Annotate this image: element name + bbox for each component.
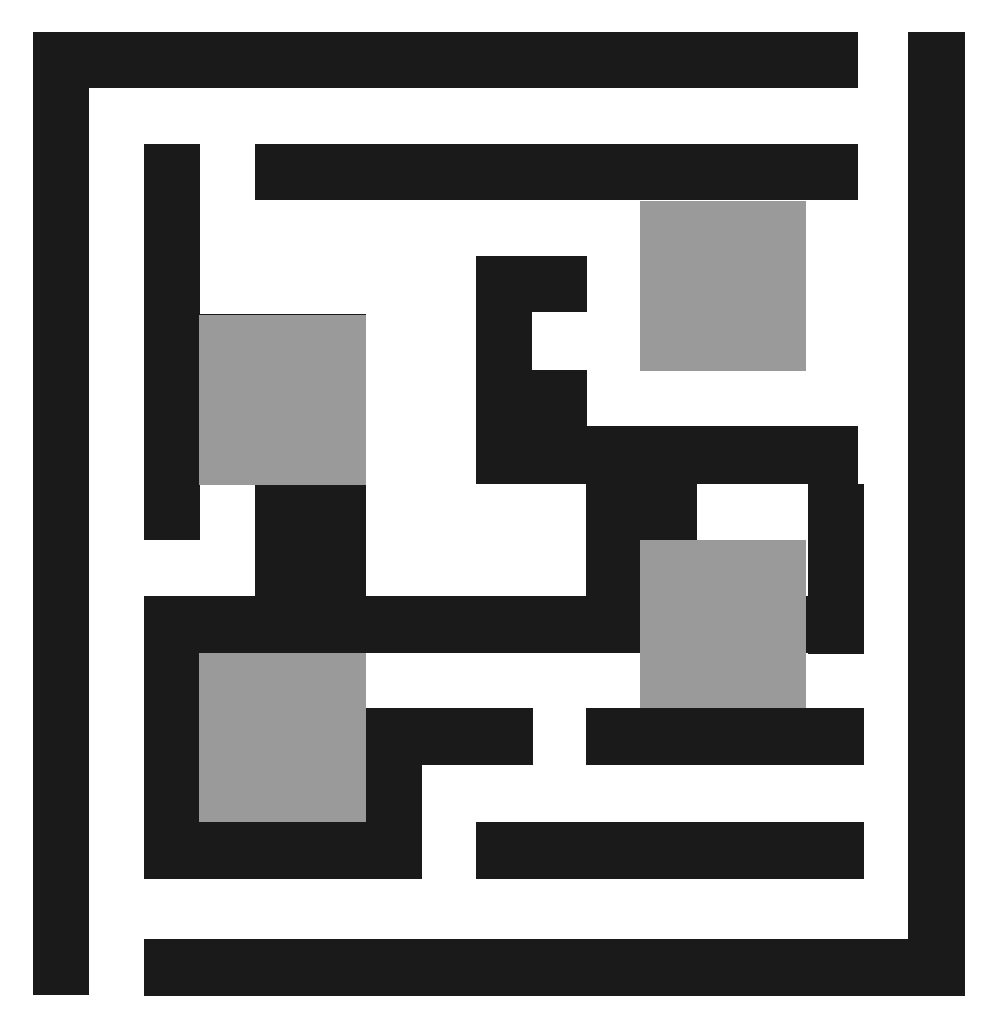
maze-goal-goal-bottom-left: [199, 653, 366, 822]
maze-wall-w-r8-bottom-left: [144, 822, 422, 879]
maze-wall-outer-left: [33, 32, 89, 995]
maze-wall-w-r7-horiz-mid: [366, 708, 533, 765]
maze-wall-w-r8-bottom-mid: [476, 822, 864, 879]
maze-goal-goal-top-right: [640, 201, 806, 371]
maze-wall-outer-bottom: [144, 939, 965, 996]
maze-wall-w-r2-top-long: [255, 144, 858, 200]
maze-wall-w-r4-c1-vert: [144, 370, 200, 540]
maze-wall-outer-right: [908, 32, 965, 995]
maze-wall-w-r5-c7-block: [808, 484, 864, 654]
maze-goal-goal-bottom-right: [640, 540, 806, 708]
maze-wall-w-r4-right-bar: [476, 426, 858, 484]
maze-canvas: [0, 0, 999, 1031]
maze-wall-w-r7-right-horiz: [586, 708, 864, 765]
maze-goal-goal-top-left: [199, 315, 366, 485]
maze-wall-w-r5-c3-block: [255, 484, 366, 596]
maze-wall-w-r6-long-horiz: [144, 596, 586, 653]
maze-wall-outer-top: [33, 32, 858, 88]
maze-wall-w-r3-c4-notch: [476, 370, 587, 426]
